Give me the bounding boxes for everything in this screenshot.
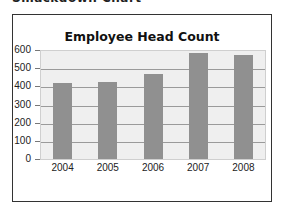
y-tick-label: 400	[0, 80, 31, 91]
y-tick-label: 0	[0, 153, 31, 164]
y-tick-label: 100	[0, 135, 31, 146]
x-tick-label: 2007	[178, 162, 218, 173]
bar-2006	[144, 74, 163, 159]
x-tick-label: 2004	[43, 162, 83, 173]
plot-area	[40, 50, 266, 160]
x-tick-label: 2008	[223, 162, 263, 173]
bar-2007	[189, 53, 208, 159]
x-tick-label: 2006	[133, 162, 173, 173]
y-tick-label: 600	[0, 44, 31, 55]
y-tick-label: 500	[0, 62, 31, 73]
y-tick-label: 300	[0, 99, 31, 110]
bar-2005	[98, 82, 117, 159]
x-tick-label: 2005	[88, 162, 128, 173]
y-tick-label: 200	[0, 117, 31, 128]
chart-title: Employee Head Count	[0, 29, 284, 44]
chart-caption: Smackdown Chart	[12, 0, 142, 5]
gridline	[41, 69, 265, 70]
bar-2008	[234, 55, 253, 159]
bar-2004	[53, 83, 72, 159]
